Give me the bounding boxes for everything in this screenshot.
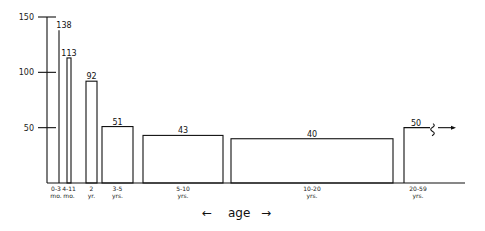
break-mark-icon — [431, 124, 435, 136]
category-label: 2 — [90, 185, 94, 192]
y-ticks: 50100150 — [19, 13, 56, 133]
bar: 1380-3mo. — [50, 21, 71, 199]
bar-value-label: 113 — [61, 49, 76, 58]
bar-value-label: 138 — [56, 21, 71, 30]
bar: 4010-20yrs. — [231, 130, 393, 200]
category-label: 3-5 — [113, 185, 123, 192]
category-label: 4-11 — [62, 185, 76, 192]
category-label: 0-3 — [51, 185, 61, 192]
y-tick-label: 150 — [19, 13, 34, 22]
y-tick-label: 100 — [19, 68, 34, 77]
x-axis-title: ← age → — [202, 206, 271, 220]
y-tick-label: 50 — [24, 124, 34, 133]
left-arrow-icon: ← — [202, 206, 212, 220]
bar: 435-10yrs. — [143, 126, 223, 200]
age-bar-chart: 50100150 1380-3mo.1134-11mo.922yr.513-5y… — [0, 0, 485, 231]
bar: 513-5yrs. — [102, 118, 133, 200]
category-unit-label: mo. — [50, 192, 61, 199]
bar-value-label: 43 — [178, 126, 188, 135]
category-unit-label: yrs. — [306, 192, 317, 200]
category-unit-label: yrs. — [112, 192, 123, 200]
category-label: 5-10 — [176, 185, 190, 192]
category-unit-label: yrs. — [177, 192, 188, 200]
bar: 922yr. — [86, 72, 97, 200]
category-unit-label: yr. — [88, 192, 95, 200]
bar-value-label: 40 — [307, 130, 317, 139]
bar-value-label: 51 — [112, 118, 122, 127]
x-axis-label: age — [228, 206, 250, 220]
bar-value-label: 50 — [411, 119, 421, 128]
category-label: 20-59 — [409, 185, 427, 192]
bars: 1380-3mo.1134-11mo.922yr.513-5yrs.435-10… — [50, 21, 456, 200]
category-unit-label: yrs. — [412, 192, 423, 200]
bar: 1134-11mo. — [61, 49, 76, 199]
right-arrow-icon: → — [261, 206, 271, 220]
category-unit-label: mo. — [63, 192, 74, 199]
bar: 5020-59yrs. — [404, 119, 456, 200]
continuation-arrow-icon — [451, 126, 456, 130]
category-label: 10-20 — [303, 185, 321, 192]
bar-value-label: 92 — [86, 72, 96, 81]
